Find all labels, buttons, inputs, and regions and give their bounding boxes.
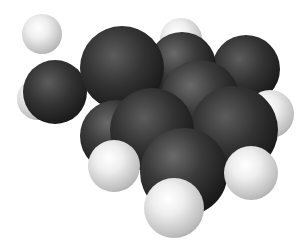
hydrogen-atom <box>224 146 278 200</box>
molecule-model-image <box>0 0 297 243</box>
hydrogen-atom <box>88 140 140 192</box>
hydrogen-atom <box>144 178 204 238</box>
carbon-atom <box>23 60 87 124</box>
hydrogen-atom <box>22 14 62 54</box>
